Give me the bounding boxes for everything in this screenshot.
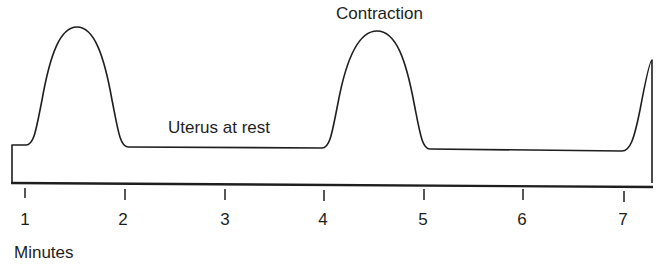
axis-ticks [25, 188, 624, 202]
uterus-at-rest-label: Uterus at rest [168, 118, 270, 138]
tick-label-3: 3 [220, 210, 229, 230]
tick-label-2: 2 [118, 210, 127, 230]
tick-label-6: 6 [517, 210, 526, 230]
tick-label-5: 5 [418, 210, 427, 230]
axis-title-minutes: Minutes [14, 243, 74, 263]
contraction-curve [12, 27, 652, 183]
contraction-label: Contraction [336, 4, 423, 24]
tick-label-4: 4 [318, 210, 327, 230]
tick-label-1: 1 [20, 210, 29, 230]
tick-label-7: 7 [618, 210, 627, 230]
time-axis [11, 183, 653, 187]
contraction-waveform-diagram [0, 0, 661, 268]
